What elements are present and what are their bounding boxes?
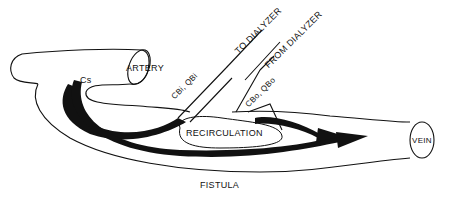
fistula-label: FISTULA: [200, 180, 239, 190]
vein-label: VEIN: [412, 136, 432, 145]
artery-tube: [11, 47, 190, 112]
fistula-diagram: [0, 0, 463, 199]
cs-label: Cs: [80, 75, 92, 85]
flow-arrows: [63, 80, 368, 157]
artery-label: ARTERY: [126, 63, 164, 73]
recirculation-label: RECIRCULATION: [186, 128, 263, 138]
